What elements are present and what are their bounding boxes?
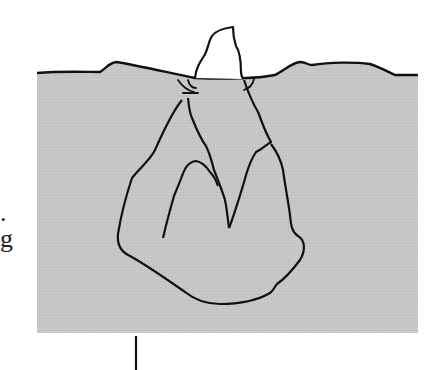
water-region [37,62,418,333]
iceberg-diagram [0,0,445,370]
iceberg-tip [195,27,243,79]
